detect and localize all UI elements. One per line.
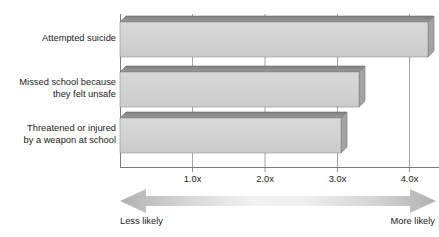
category-label-threatened-or-injured: Threatened or injured by a weapon at sch… <box>4 123 116 146</box>
x-tick-marks <box>193 168 410 173</box>
bar-missed-school <box>120 66 365 107</box>
bar-threatened-or-injured <box>120 112 347 153</box>
category-label-missed-school: Missed school because they felt unsafe <box>4 77 116 100</box>
bar-chart: Attempted suicide Missed school because … <box>0 0 439 237</box>
category-label-line: Attempted suicide <box>4 33 116 45</box>
arrow-label-less-likely: Less likely <box>120 216 163 226</box>
category-label-line: they felt unsafe <box>4 89 116 101</box>
arrow-label-more-likely: More likely <box>391 216 435 226</box>
double-headed-arrow <box>120 189 436 213</box>
x-tick-label-3: 3.0x <box>318 174 358 184</box>
x-tick-label-2: 2.0x <box>245 174 285 184</box>
x-tick-label-4: 4.0x <box>390 174 430 184</box>
category-label-attempted-suicide: Attempted suicide <box>4 33 116 45</box>
category-label-line: Missed school because <box>4 77 116 89</box>
category-label-line: Threatened or injured <box>4 123 116 135</box>
x-tick-label-1: 1.0x <box>173 174 213 184</box>
bar-attempted-suicide <box>120 16 434 57</box>
category-label-line: by a weapon at school <box>4 135 116 147</box>
